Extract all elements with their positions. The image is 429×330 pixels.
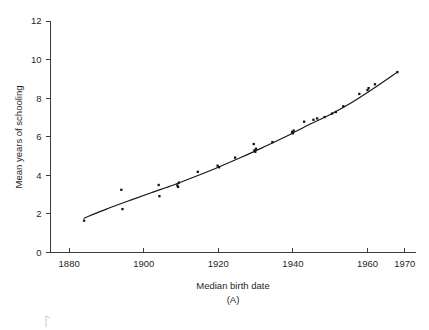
data-point bbox=[158, 184, 160, 186]
data-point bbox=[342, 105, 344, 107]
data-point bbox=[312, 119, 314, 121]
x-axis-title: Median birth date bbox=[196, 280, 269, 291]
data-point bbox=[255, 148, 257, 150]
panel-caption: (A) bbox=[227, 294, 240, 305]
data-point bbox=[253, 143, 255, 145]
data-point bbox=[367, 87, 369, 89]
data-point bbox=[292, 132, 294, 134]
data-point bbox=[178, 182, 180, 184]
data-point bbox=[197, 171, 199, 173]
data-point bbox=[335, 111, 337, 113]
data-point bbox=[254, 151, 256, 153]
data-point bbox=[316, 117, 318, 119]
data-point bbox=[271, 141, 273, 143]
data-point bbox=[303, 121, 305, 123]
data-point bbox=[83, 220, 85, 222]
data-point bbox=[234, 156, 236, 158]
data-point bbox=[177, 186, 179, 188]
data-point bbox=[218, 166, 220, 168]
y-tick-label: 2 bbox=[36, 208, 41, 219]
data-point bbox=[396, 71, 398, 73]
y-tick-label: 4 bbox=[36, 170, 41, 181]
data-point bbox=[293, 129, 295, 131]
y-tick-label: 12 bbox=[31, 15, 42, 26]
data-point bbox=[158, 195, 160, 197]
data-point bbox=[358, 93, 360, 95]
data-point bbox=[331, 112, 333, 114]
y-tick-label: 6 bbox=[36, 131, 41, 142]
y-tick-label: 8 bbox=[36, 93, 41, 104]
data-point bbox=[374, 83, 376, 85]
y-tick-label: 0 bbox=[36, 247, 41, 258]
data-point bbox=[120, 189, 122, 191]
scatter-plot-svg: 024681012 188019001920194019601970 Media… bbox=[0, 0, 429, 330]
x-tick-label: 1880 bbox=[59, 258, 80, 269]
y-axis-title: Mean years of schooling bbox=[13, 86, 24, 189]
data-point bbox=[121, 208, 123, 210]
chart-figure: 024681012 188019001920194019601970 Media… bbox=[0, 0, 429, 330]
y-tick-label: 10 bbox=[31, 54, 42, 65]
x-tick-label: 1940 bbox=[282, 258, 303, 269]
x-tick-label: 1970 bbox=[394, 258, 415, 269]
data-point bbox=[323, 116, 325, 118]
x-tick-label: 1920 bbox=[208, 258, 229, 269]
x-tick-label: 1960 bbox=[357, 258, 378, 269]
x-tick-label: 1900 bbox=[133, 258, 154, 269]
